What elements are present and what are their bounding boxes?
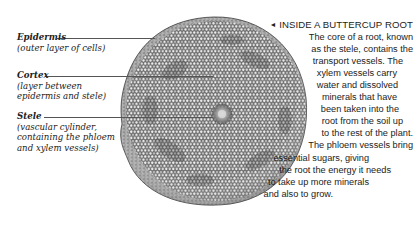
left-arrow-icon: ◄	[269, 21, 276, 28]
cortex-description-line-1: (layer between	[17, 81, 106, 92]
cortex-title: Cortex	[17, 70, 49, 80]
stele-description-line-2: containing the phloem	[17, 132, 115, 143]
epidermis-title: Epidermis	[17, 32, 66, 42]
stele-title: Stele	[17, 111, 41, 121]
caption-line: the root the energy it needs	[253, 164, 413, 176]
caption-line: to take up more minerals	[253, 176, 413, 188]
cortex-label: Cortex (layer between epidermis and stel…	[17, 70, 106, 102]
stele-label: Stele (vascular cylinder, containing the…	[17, 111, 115, 153]
caption-line: and also to grow.	[253, 188, 413, 200]
caption-line: root from the soil up	[253, 115, 413, 127]
caption-line: to the rest of the plant.	[253, 127, 413, 139]
epidermis-label: Epidermis (outer layer of cells)	[17, 32, 105, 53]
caption-line: transport vessels. The	[253, 55, 413, 67]
caption-line: been taken into the	[253, 103, 413, 115]
caption-line: essential sugars, giving	[253, 152, 413, 164]
caption-heading-row: ◄ INSIDE A BUTTERCUP ROOT	[253, 19, 413, 31]
epidermis-description: (outer layer of cells)	[17, 43, 105, 54]
stele-description-line-3: and xylem vessels)	[17, 143, 115, 154]
caption-line: The core of a root, known	[253, 31, 413, 43]
caption-line: water and dissolved	[253, 79, 413, 91]
stele-description-line-1: (vascular cylinder,	[17, 122, 115, 133]
caption-line: The phloem vessels bring	[253, 139, 413, 151]
caption-line: as the stele, contains the	[253, 43, 413, 55]
caption-block: ◄ INSIDE A BUTTERCUP ROOT The core of a …	[253, 19, 413, 200]
caption-line: minerals that have	[253, 91, 413, 103]
cortex-description-line-2: epidermis and stele)	[17, 91, 106, 102]
caption-line: xylem vessels carry	[253, 67, 413, 79]
caption-heading: INSIDE A BUTTERCUP ROOT	[279, 19, 413, 30]
